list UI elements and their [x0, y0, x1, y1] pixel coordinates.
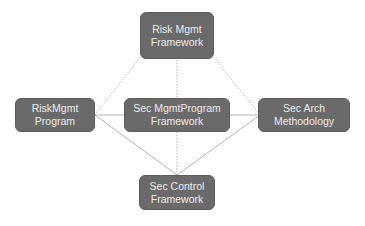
node-label-line1: Sec Arch: [283, 102, 325, 115]
node-label-line1: Sec MgmtProgram: [133, 102, 221, 115]
node-risk-mgmt-framework: Risk Mgmt Framework: [140, 12, 214, 59]
node-sec-mgmtprogram-framework: Sec MgmtProgram Framework: [124, 98, 230, 132]
node-sec-arch-methodology: Sec Arch Methodology: [258, 98, 350, 132]
node-label-line2: Program: [35, 115, 75, 128]
node-label-line2: Framework: [151, 193, 204, 206]
node-label-line1: Sec Control: [150, 180, 205, 193]
node-label-line1: RiskMgmt: [32, 102, 79, 115]
node-label-line2: Framework: [151, 115, 204, 128]
node-label-line2: Methodology: [274, 115, 334, 128]
node-riskmgmt-program: RiskMgmt Program: [15, 98, 95, 132]
node-sec-control-framework: Sec Control Framework: [139, 175, 215, 210]
node-label-line2: Framework: [151, 36, 204, 49]
node-label-line1: Risk Mgmt: [152, 23, 202, 36]
